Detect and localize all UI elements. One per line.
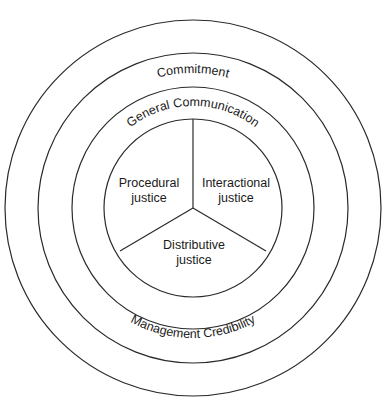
procedural-line1: Procedural <box>119 176 179 190</box>
distributive-line1: Distributive <box>163 238 225 252</box>
distributive-line2: justice <box>175 253 211 267</box>
concentric-diagram: Commitment General Communication Managem… <box>0 0 387 406</box>
ring-label-management-credibility: Management Credibility <box>129 312 258 341</box>
interactional-line1: Interactional <box>202 176 270 190</box>
ring-label-commitment: Commitment <box>155 62 231 81</box>
segment-distributive: Distributive justice <box>163 238 225 267</box>
interactional-line2: justice <box>217 191 253 205</box>
segment-procedural: Procedural justice <box>119 176 179 205</box>
segment-interactional: Interactional justice <box>202 176 270 205</box>
procedural-line2: justice <box>130 191 166 205</box>
